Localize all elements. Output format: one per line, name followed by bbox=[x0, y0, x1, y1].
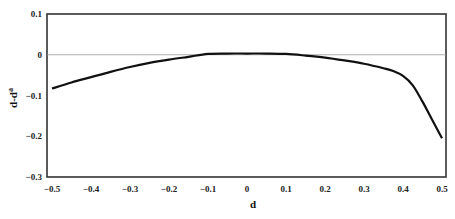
x-tick-label: 0.4 bbox=[397, 184, 409, 194]
x-tick-label: 0.3 bbox=[358, 184, 370, 194]
line-chart: −0.5−0.4−0.3−0.2−0.100.10.20.30.40.5 0.1… bbox=[0, 0, 455, 219]
y-axis-label-superscript: a bbox=[6, 88, 15, 92]
y-axis-label: d-da bbox=[6, 88, 19, 108]
y-tick-label: 0 bbox=[38, 50, 43, 60]
x-tick-label: −0.2 bbox=[161, 184, 178, 194]
x-axis-ticks: −0.5−0.4−0.3−0.2−0.100.10.20.30.40.5 bbox=[44, 184, 448, 194]
x-tick-label: −0.4 bbox=[83, 184, 100, 194]
y-tick-label: 0.1 bbox=[31, 9, 43, 19]
x-tick-label: 0.2 bbox=[319, 184, 331, 194]
plot-area bbox=[47, 14, 446, 177]
x-tick-label: −0.5 bbox=[44, 184, 61, 194]
x-tick-label: −0.1 bbox=[200, 184, 217, 194]
y-axis-ticks: 0.10−0.1−0.2−0.3 bbox=[26, 9, 43, 182]
y-tick-label: −0.3 bbox=[26, 172, 43, 182]
x-tick-label: 0.1 bbox=[280, 184, 292, 194]
plot-frame bbox=[47, 14, 446, 177]
y-tick-label: −0.1 bbox=[26, 91, 43, 101]
y-tick-label: −0.2 bbox=[26, 131, 43, 141]
y-axis-label-main: d-d bbox=[7, 92, 19, 108]
data-series-line bbox=[52, 53, 442, 138]
x-tick-label: −0.3 bbox=[122, 184, 139, 194]
x-tick-label: 0.5 bbox=[436, 184, 448, 194]
x-tick-label: 0 bbox=[245, 184, 250, 194]
x-axis-label: d bbox=[250, 198, 256, 210]
